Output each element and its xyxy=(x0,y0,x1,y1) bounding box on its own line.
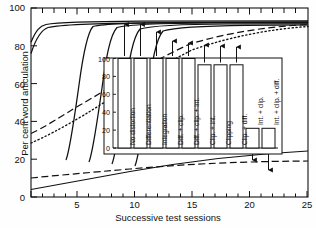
inset-bar-label-diff-clip: Diff. + clip. xyxy=(177,114,184,145)
x-tick-label-15: 15 xyxy=(182,199,202,210)
inset-y-tick-label-40: 40 xyxy=(94,108,110,117)
y-tick-label-20: 20 xyxy=(1,154,25,165)
inset-bar xyxy=(262,128,275,148)
inset-bar-label-int-clip-diff: Int. + clip. + diff. xyxy=(273,79,280,125)
chart-figure: Per cent word articulation Successive te… xyxy=(0,0,316,228)
inset-y-tick-label-60: 60 xyxy=(94,90,110,99)
x-tick-label-10: 10 xyxy=(125,199,145,210)
inset-bar-label-integration: Integration xyxy=(161,114,168,145)
y-tick-label-60: 60 xyxy=(1,79,25,90)
x-tick-label-20: 20 xyxy=(240,199,260,210)
inset-bar-label-diff-clip-int: Diff. + clip. + int. xyxy=(193,98,200,145)
y-tick-label-80: 80 xyxy=(1,41,25,52)
inset-bar-label-clip-diff: Clip. + diff. xyxy=(241,114,248,145)
x-tick-label-25: 25 xyxy=(297,199,316,210)
inset-bar-label-clipping: Clipping xyxy=(225,121,232,145)
y-tick-label-100: 100 xyxy=(0,2,25,13)
y-tick-label-40: 40 xyxy=(1,116,25,127)
inset-y-tick-label-20: 20 xyxy=(94,126,110,135)
y-tick-label-0: 0 xyxy=(1,192,25,203)
inset-y-tick-label-0: 0 xyxy=(94,144,110,153)
inset-y-tick-label-80: 80 xyxy=(94,72,110,81)
inset-bar-label-int-clip: Int. + clip. xyxy=(257,97,264,125)
chart-canvas xyxy=(0,0,316,228)
inset-bar-label-no-distortion: No distortion xyxy=(129,108,136,145)
inset-bar-label-clip-int: Clip. + int. xyxy=(209,115,216,145)
y-axis-title: Per cent word articulation xyxy=(19,34,30,174)
inset-y-tick-label-100: 100 xyxy=(89,55,110,64)
x-tick-label-5: 5 xyxy=(67,199,87,210)
inset-bar-label-differentiation: Differentiation xyxy=(145,104,152,145)
x-axis-title: Successive test sessions xyxy=(78,212,258,223)
